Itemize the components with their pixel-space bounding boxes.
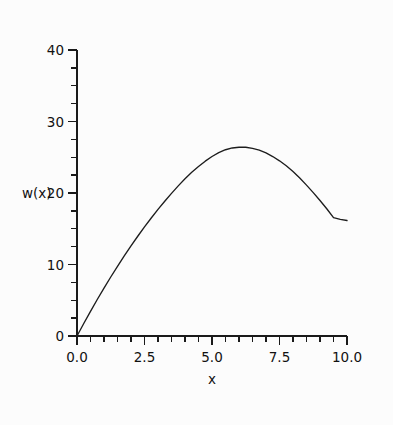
x-axis-tick-label: 10.0 [332,349,362,365]
x-axis-tick-label: 7.5 [269,349,290,365]
chart-figure: 010203040 0.02.55.07.510.0 w(x) x [0,0,393,425]
line-chart: 010203040 0.02.55.07.510.0 w(x) x [0,0,393,425]
x-axis-tick-label: 2.5 [134,349,155,365]
y-axis-title: w(x) [22,185,52,201]
x-axis-tick-label: 0.0 [66,349,87,365]
data-series-line [77,147,347,336]
x-axis-title: x [208,371,216,387]
y-axis-tick-label: 10 [47,257,64,273]
y-axis-tick-label: 30 [47,114,64,130]
y-axis-tick-label: 0 [55,328,64,344]
x-axis: 0.02.55.07.510.0 [66,336,362,365]
data-series-group [77,147,347,336]
x-axis-tick-label: 5.0 [201,349,222,365]
y-axis-tick-label: 40 [47,42,64,58]
